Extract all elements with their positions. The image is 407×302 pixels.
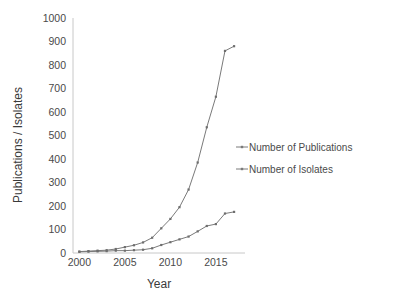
data-point-marker [133, 249, 135, 251]
legend-item[interactable]: Number of Publications [236, 142, 352, 153]
x-tick-label: 2000 [68, 256, 92, 268]
x-tick-label: 2005 [113, 256, 137, 268]
data-point-marker [197, 230, 199, 232]
data-point-marker [178, 206, 180, 208]
data-point-marker [215, 96, 217, 98]
data-point-marker [151, 237, 153, 239]
data-point-marker [78, 251, 80, 253]
data-point-marker [169, 218, 171, 220]
y-axis-tick-labels: 01002003004005006007008009001000 [43, 12, 67, 259]
y-tick-label: 800 [48, 59, 66, 71]
data-point-marker [224, 50, 226, 52]
series-line [79, 46, 234, 251]
data-point-marker [160, 244, 162, 246]
data-point-marker [142, 241, 144, 243]
data-point-marker [178, 238, 180, 240]
y-tick-label: 700 [48, 82, 66, 94]
x-axis-title: Year [147, 277, 171, 291]
y-tick-label: 0 [60, 247, 66, 259]
data-point-marker [151, 247, 153, 249]
y-tick-label: 400 [48, 153, 66, 165]
data-point-marker [124, 246, 126, 248]
data-point-marker [224, 212, 226, 214]
data-point-marker [187, 235, 189, 237]
legend-item[interactable]: Number of Isolates [236, 164, 333, 175]
data-point-marker [106, 250, 108, 252]
legend-label: Number of Publications [249, 142, 352, 153]
line-chart: 01002003004005006007008009001000 2000200… [0, 0, 407, 302]
data-point-marker [187, 188, 189, 190]
x-tick-label: 2015 [204, 256, 228, 268]
y-tick-label: 500 [48, 129, 66, 141]
y-tick-label: 100 [48, 223, 66, 235]
y-tick-label: 300 [48, 176, 66, 188]
x-tick-label: 2010 [159, 256, 183, 268]
data-point-marker [197, 161, 199, 163]
legend-marker-point-icon [241, 146, 243, 148]
legend-label: Number of Isolates [249, 164, 333, 175]
data-series [78, 211, 235, 253]
data-series [78, 45, 235, 253]
data-point-marker [233, 45, 235, 47]
data-point-marker [115, 250, 117, 252]
data-point-marker [133, 244, 135, 246]
data-point-marker [124, 250, 126, 252]
data-point-marker [206, 126, 208, 128]
data-point-marker [233, 211, 235, 213]
series-line [79, 212, 234, 252]
chart-figure: 01002003004005006007008009001000 2000200… [0, 0, 407, 302]
data-point-marker [215, 223, 217, 225]
data-point-marker [169, 241, 171, 243]
y-tick-label: 600 [48, 106, 66, 118]
data-point-marker [160, 227, 162, 229]
data-point-marker [87, 250, 89, 252]
y-tick-label: 200 [48, 200, 66, 212]
chart-legend: Number of PublicationsNumber of Isolates [236, 142, 352, 175]
data-point-marker [206, 225, 208, 227]
data-point-marker [96, 250, 98, 252]
y-tick-label: 900 [48, 35, 66, 47]
data-point-marker [142, 249, 144, 251]
y-axis-title: Publications / Isolates [11, 87, 25, 203]
legend-marker-point-icon [241, 168, 243, 170]
x-axis-tick-labels: 2000200520102015 [68, 256, 228, 268]
y-tick-label: 1000 [43, 12, 67, 24]
series-group [78, 45, 235, 253]
